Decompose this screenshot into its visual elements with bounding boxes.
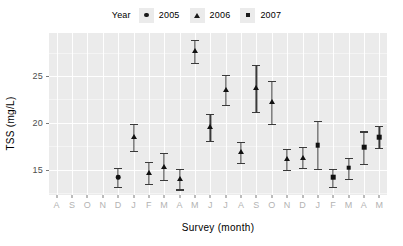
triangle-marker-icon — [131, 134, 137, 139]
error-bar-cap-lower — [375, 148, 383, 149]
error-bar-cap-lower — [252, 112, 260, 113]
y-axis-tick-label: 25 — [33, 71, 43, 81]
gridline-vertical — [364, 33, 365, 195]
error-bar-cap-lower — [237, 163, 245, 164]
error-bar-cap-lower — [329, 187, 337, 188]
x-axis-tick-label: M — [345, 200, 353, 210]
legend-label-2005: 2005 — [159, 10, 180, 20]
x-axis-tick-label: J — [208, 200, 213, 210]
x-axis-tick — [333, 195, 334, 198]
x-axis-tick-label: D — [299, 200, 306, 210]
error-bar-cap-upper — [145, 162, 153, 163]
x-axis-tick-label: S — [69, 200, 75, 210]
gridline-horizontal-major — [49, 123, 387, 124]
error-bar-cap-lower — [222, 105, 230, 106]
error-bar-cap-upper — [130, 124, 138, 125]
triangle-marker-icon — [161, 164, 167, 169]
y-axis-tick-label: 20 — [33, 118, 43, 128]
square-marker-icon — [377, 135, 382, 140]
x-axis-tick-label: M — [375, 200, 383, 210]
error-bar-cap-upper — [268, 81, 276, 82]
x-axis-tick — [102, 195, 103, 198]
x-axis-tick-label: O — [268, 200, 275, 210]
x-axis-tick-label: M — [191, 200, 199, 210]
error-bar-cap-lower — [130, 151, 138, 152]
x-axis-tick — [348, 195, 349, 198]
triangle-marker-icon — [194, 13, 200, 18]
gridline-vertical — [318, 33, 319, 195]
square-marker-icon — [362, 145, 367, 150]
x-axis-title: Survey (month) — [49, 222, 387, 233]
error-bar-cap-lower — [345, 179, 353, 180]
error-bar-cap-upper — [375, 126, 383, 127]
x-axis-tick-label: F — [330, 200, 336, 210]
x-axis-tick — [271, 195, 272, 198]
x-axis-tick — [133, 195, 134, 198]
x-axis-tick — [72, 195, 73, 198]
x-axis-tick — [87, 195, 88, 198]
plot-panel — [49, 33, 387, 195]
x-axis-tick — [164, 195, 165, 198]
x-axis-tick — [148, 195, 149, 198]
gridline-vertical — [87, 33, 88, 195]
error-bar-cap-upper — [237, 142, 245, 143]
square-marker-icon — [246, 13, 251, 18]
triangle-marker-icon — [300, 155, 306, 160]
error-bar-cap-lower — [299, 168, 307, 169]
legend-title: Year — [112, 10, 131, 20]
triangle-marker-icon — [192, 48, 198, 53]
square-marker-icon — [316, 143, 321, 148]
error-bar-cap-lower — [314, 169, 322, 170]
x-axis-tick — [256, 195, 257, 198]
x-axis-tick — [118, 195, 119, 198]
legend-item-2006[interactable]: 2006 — [190, 8, 231, 23]
legend-label-2006: 2006 — [210, 10, 231, 20]
triangle-marker-icon — [223, 87, 229, 92]
y-axis-tick-label: 15 — [33, 165, 43, 175]
gridline-horizontal-minor — [49, 146, 387, 147]
gridline-vertical — [103, 33, 104, 195]
error-bar-cap-lower — [360, 164, 368, 165]
error-bar-cap-lower — [176, 189, 184, 190]
x-axis-tick-label: A — [238, 200, 244, 210]
error-bar-cap-upper — [283, 149, 291, 150]
x-axis-tick-label: A — [54, 200, 60, 210]
x-axis: ASONDJFMAMJJASONDJFMAM — [49, 195, 387, 219]
legend-key-circle — [139, 8, 154, 23]
error-bar-cap-lower — [160, 180, 168, 181]
error-bar-cap-upper — [345, 158, 353, 159]
x-axis-tick-label: S — [253, 200, 259, 210]
error-bar-cap-lower — [145, 184, 153, 185]
error-bar-cap-lower — [268, 124, 276, 125]
x-axis-tick — [317, 195, 318, 198]
error-bar-cap-upper — [206, 114, 214, 115]
x-axis-tick — [363, 195, 364, 198]
error-bar-cap-lower — [114, 187, 122, 188]
gridline-horizontal-minor — [49, 193, 387, 194]
error-bar-cap-lower — [191, 63, 199, 64]
x-axis-tick-label: M — [160, 200, 168, 210]
x-axis-tick — [225, 195, 226, 198]
legend-key-triangle — [190, 8, 205, 23]
x-axis-tick-label: N — [99, 200, 106, 210]
x-axis-tick — [210, 195, 211, 198]
x-axis-tick-label: F — [146, 200, 152, 210]
error-bar-cap-upper — [314, 121, 322, 122]
x-axis-tick — [287, 195, 288, 198]
x-axis-tick-label: O — [84, 200, 91, 210]
x-axis-tick — [379, 195, 380, 198]
square-marker-icon — [346, 166, 351, 171]
circle-marker-icon — [144, 13, 149, 18]
legend-item-2007[interactable]: 2007 — [240, 8, 281, 23]
x-axis-tick — [241, 195, 242, 198]
chart-root: Year 2005 2006 2007 TSS (mg/L) 152025 AS… — [0, 0, 403, 246]
gridline-vertical — [303, 33, 304, 195]
legend-label-2007: 2007 — [260, 10, 281, 20]
gridline-horizontal-major — [49, 76, 387, 77]
square-marker-icon — [331, 175, 336, 180]
legend-item-2005[interactable]: 2005 — [139, 8, 180, 23]
x-axis-tick-label: A — [361, 200, 367, 210]
triangle-marker-icon — [253, 85, 259, 90]
triangle-marker-icon — [177, 176, 183, 181]
gridline-vertical — [241, 33, 242, 195]
